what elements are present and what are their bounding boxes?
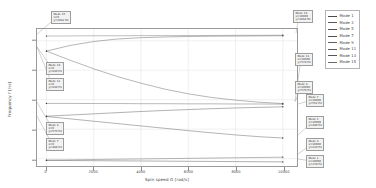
ann-mode13-right[interactable]: Mode 13x=10000y=1034 Hz (293, 10, 313, 23)
ann-mode5-right[interactable]: Mode 5x=10000y=340 Hz (306, 116, 324, 129)
ann-mode11-left[interactable]: Mode 11x=0y=930 Hz (46, 78, 64, 91)
ann-mode11-right[interactable]: Mode 11x=10000y=574 Hz (295, 53, 313, 66)
annotation-line: y=570 Hz (297, 89, 310, 92)
annotation-line: y=552 Hz (308, 102, 321, 105)
annotation-line: y=575 Hz (48, 130, 61, 133)
ann-mode3-right[interactable]: Mode 3x=10000y=210 Hz (306, 138, 324, 151)
ann-mode15-left[interactable]: Mode 15x=0y=1032 Hz (51, 11, 71, 24)
annotation-line: y=210 Hz (308, 146, 321, 149)
ann-mode7-right[interactable]: Mode 7x=10000y=552 Hz (306, 94, 324, 107)
ann-mode1-right[interactable]: Mode 1x=10000y=178 Hz (306, 155, 324, 168)
annotation-line: y=930 Hz (48, 86, 61, 89)
ann-mode7-left[interactable]: Mode 7x=0y=488 Hz (46, 138, 64, 151)
campbell-diagram-figure: Frequency f [Hz] 200 400 600 800 1000 0 … (0, 0, 376, 188)
ann-mode9-right[interactable]: Mode 9x=10000y=570 Hz (295, 81, 313, 94)
annotation-line: y=1032 Hz (53, 19, 68, 22)
annotation-line: y=178 Hz (308, 163, 321, 166)
annotation-line: y=488 Hz (48, 146, 61, 149)
annotation-line: y=930 Hz (48, 70, 61, 73)
annotation-line: y=1034 Hz (295, 18, 310, 21)
ann-mode13-left[interactable]: Mode 13x=0y=930 Hz (46, 62, 64, 75)
ann-mode9-left[interactable]: Mode 9x=0y=575 Hz (46, 122, 64, 135)
annotation-line: y=574 Hz (297, 61, 310, 64)
annotation-line: y=340 Hz (308, 124, 321, 127)
